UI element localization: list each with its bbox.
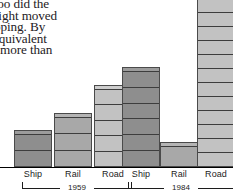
group-year-1984: 1984 <box>170 182 192 193</box>
bar-segment <box>198 153 233 166</box>
bar-segment <box>198 41 233 55</box>
bar-segment <box>15 135 51 151</box>
axis-label-1959-ship: Ship <box>14 169 52 179</box>
bracket-rule-left <box>22 188 60 189</box>
bar-segment <box>55 134 91 150</box>
axis-label-1984-road: Road <box>197 169 233 179</box>
bar-segment <box>198 55 233 69</box>
axis-label-1959-rail: Rail <box>54 169 92 179</box>
bar-1984-road <box>197 0 233 167</box>
bracket-rule-left <box>128 188 164 189</box>
freight-bar-chart: Ship Rail Road Ship Rail Road 1959 1984 <box>0 0 233 194</box>
bar-segment <box>198 27 233 41</box>
axis-label-1984-ship: Ship <box>122 169 160 179</box>
scanned-page: o too did the freight moved hipping. By … <box>0 0 233 194</box>
bracket-rule-right <box>198 188 233 189</box>
bar-1959-ship <box>14 130 52 167</box>
bar-segment <box>55 118 91 134</box>
bar-segment <box>161 147 197 166</box>
bar-1984-ship <box>122 67 160 167</box>
bar-segment <box>198 125 233 139</box>
bar-1959-rail <box>54 113 92 167</box>
group-bracket-1959: 1959 <box>22 182 132 193</box>
bar-1984-rail <box>160 142 198 167</box>
bar-segment <box>123 151 159 166</box>
bar-segment <box>198 83 233 97</box>
bar-segment <box>123 104 159 120</box>
bar-segment <box>123 135 159 151</box>
bar-segment <box>55 151 91 166</box>
bracket-rule-right <box>94 188 132 189</box>
group-year-1959: 1959 <box>66 182 88 193</box>
bar-segment <box>123 88 159 104</box>
group-bracket-1984: 1984 <box>128 182 233 193</box>
bar-segment <box>198 0 233 13</box>
bar-segment <box>15 151 51 166</box>
bar-segment <box>198 13 233 27</box>
chart-baseline <box>0 167 233 168</box>
bar-segment <box>198 69 233 83</box>
axis-label-1984-rail: Rail <box>160 169 198 179</box>
bar-segment <box>123 72 159 88</box>
bar-segment <box>123 119 159 135</box>
bar-segment <box>198 111 233 125</box>
bar-segment <box>198 139 233 153</box>
bar-segment <box>198 97 233 111</box>
